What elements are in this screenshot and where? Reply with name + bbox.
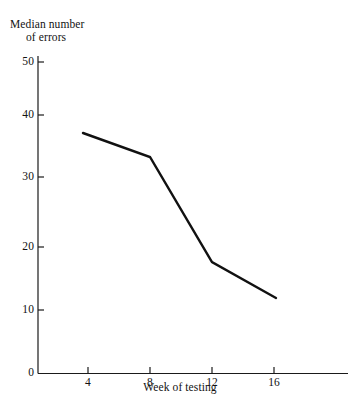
data-line-median-errors: [83, 133, 276, 298]
plot-area: [0, 0, 360, 401]
chart-container: Median number of errors 50 40 30 20 10 0…: [0, 0, 360, 401]
x-axis-ticks: [88, 367, 274, 374]
x-axis-title: Week of testing: [0, 381, 360, 393]
y-axis-ticks: [38, 62, 44, 310]
